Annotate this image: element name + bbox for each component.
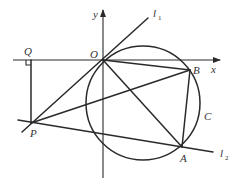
line-l1: [22, 18, 148, 132]
line-l2-subscript: 2: [225, 154, 229, 162]
x-axis-label: x: [210, 63, 216, 75]
point-b-label: B: [193, 64, 200, 76]
circle-c-label: C: [204, 110, 212, 122]
line-l1-subscript: 1: [158, 14, 162, 22]
segment-ab: [182, 70, 190, 147]
y-axis-label: y: [92, 8, 98, 20]
line-l1-label: l: [153, 7, 156, 19]
segment-pb: [31, 70, 190, 123]
line-l2-label: l: [220, 147, 223, 159]
point-a-label: A: [179, 152, 187, 164]
point-q-label: Q: [24, 45, 32, 57]
origin-label: O: [90, 48, 98, 60]
geometry-figure: y x O Q P B A C l 1 l 2: [0, 0, 241, 186]
point-p-label: P: [29, 127, 37, 139]
segment-oa: [103, 60, 182, 147]
segment-ob: [103, 60, 190, 70]
